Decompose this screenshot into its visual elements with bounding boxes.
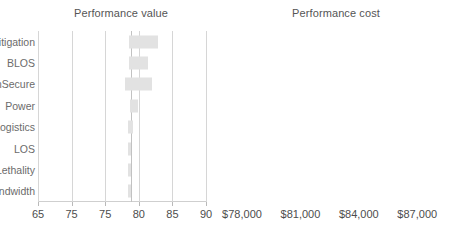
bar bbox=[128, 121, 133, 134]
bar bbox=[129, 57, 148, 70]
x-axis-tick bbox=[72, 202, 73, 206]
performance-value-plot-area: LethalMitigationBLOSCommSecurePowerLogis… bbox=[38, 31, 206, 202]
bar bbox=[128, 163, 131, 176]
category-label: Power bbox=[5, 101, 39, 112]
bar bbox=[128, 142, 131, 155]
category-label: LethalMitigation bbox=[0, 36, 39, 47]
x-axis-tick-label: 85 bbox=[166, 208, 178, 220]
chart-title-performance-value: Performance value bbox=[0, 7, 228, 19]
bar bbox=[125, 78, 153, 91]
x-axis-tick-label: 75 bbox=[99, 208, 111, 220]
category-label: LOS bbox=[14, 143, 39, 154]
x-axis-tick bbox=[38, 202, 39, 206]
bar bbox=[129, 35, 159, 48]
bar bbox=[128, 185, 131, 198]
x-axis-tick-label: 65 bbox=[32, 208, 44, 220]
x-axis-tick-label: 75 bbox=[65, 208, 77, 220]
gridline bbox=[206, 31, 207, 202]
bar bbox=[130, 99, 138, 112]
category-label: Lethality bbox=[0, 165, 39, 176]
x-axis-tick-label: $87,000 bbox=[397, 208, 437, 220]
gridline bbox=[72, 31, 73, 202]
gridline bbox=[172, 31, 173, 202]
chart-title-performance-cost: Performance cost bbox=[228, 7, 450, 19]
x-axis-line bbox=[38, 201, 206, 202]
performance-cost-panel: Performance cost LensesDisplayInternalCo… bbox=[228, 0, 450, 232]
x-axis-tick-label: $81,000 bbox=[281, 208, 321, 220]
x-axis-tick-label: $84,000 bbox=[339, 208, 379, 220]
performance-value-panel: Performance value LethalMitigationBLOSCo… bbox=[0, 0, 228, 232]
gridline bbox=[105, 31, 106, 202]
x-axis-tick bbox=[206, 202, 207, 206]
x-axis-tick-label: 90 bbox=[200, 208, 212, 220]
category-label: CommSecure bbox=[0, 79, 39, 90]
x-axis-tick-label: $78,000 bbox=[222, 208, 262, 220]
x-axis-tick bbox=[139, 202, 140, 206]
gridline bbox=[38, 31, 39, 202]
category-label: Logistics bbox=[0, 122, 39, 133]
x-axis-tick-label: 80 bbox=[133, 208, 145, 220]
category-label: BLOS bbox=[7, 58, 39, 69]
x-axis-tick bbox=[172, 202, 173, 206]
tornado-charts-figure: Performance value LethalMitigationBLOSCo… bbox=[0, 0, 450, 232]
category-label: Bandwidth bbox=[0, 186, 39, 197]
x-axis-tick bbox=[105, 202, 106, 206]
